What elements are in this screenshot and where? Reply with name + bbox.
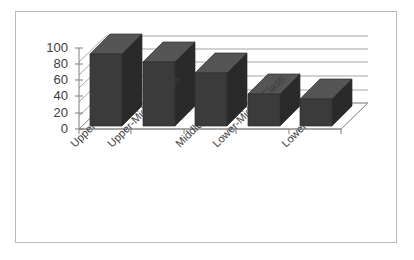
- chart-plot-area: [16, 12, 396, 242]
- chart-frame: 100 80 60 40 20 0 Upper Class Upper-Midd…: [15, 11, 397, 243]
- y-tick-label-80: 80: [34, 57, 68, 70]
- y-tick-label-20: 20: [34, 106, 68, 119]
- y-tick-label-40: 40: [34, 89, 68, 102]
- chart-figure: 100 80 60 40 20 0 Upper Class Upper-Midd…: [0, 0, 414, 260]
- y-tick-label-0: 0: [34, 122, 68, 135]
- y-tick-label-60: 60: [34, 73, 68, 86]
- y-tick-label-100: 100: [34, 41, 68, 54]
